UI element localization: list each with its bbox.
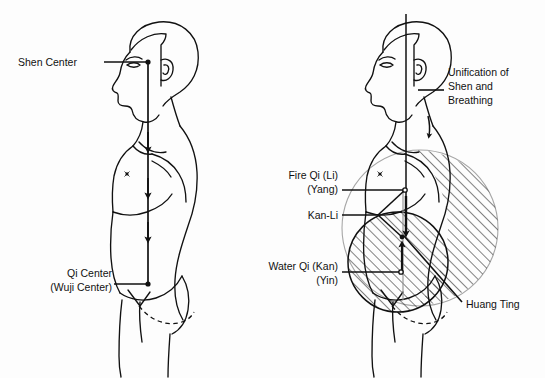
qigong-diagram-svg: Shen Center Qi Center (Wuji Center) (0, 0, 545, 378)
label-unification-line2: Shen and (448, 80, 493, 92)
label-qi-center: Qi Center (67, 267, 112, 279)
label-fire-qi-yang: (Yang) (307, 183, 338, 195)
label-fire-qi: Fire Qi (Li) (288, 169, 338, 181)
label-wuji-center: (Wuji Center) (50, 281, 112, 293)
water-qi-point (399, 270, 403, 274)
diagram-canvas: Shen Center Qi Center (Wuji Center) (0, 0, 545, 378)
label-unification-line1: Unification of (448, 66, 509, 78)
label-unification-line3: Breathing (448, 94, 493, 106)
label-kan-li: Kan-Li (308, 209, 338, 221)
fire-qi-point (403, 188, 407, 192)
kan-li-point (400, 235, 405, 240)
label-water-qi: Water Qi (Kan) (268, 260, 338, 272)
label-shen-center: Shen Center (18, 56, 77, 68)
label-huang-ting: Huang Ting (466, 298, 520, 310)
label-water-qi-yin: (Yin) (316, 274, 338, 286)
